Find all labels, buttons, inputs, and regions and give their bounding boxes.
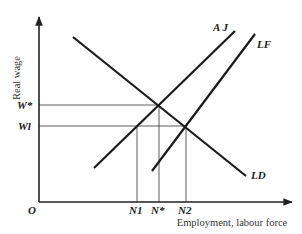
origin-label: O: [28, 204, 36, 216]
x-axis-label: Employment, labour force: [177, 217, 288, 228]
aj-label: A J: [212, 21, 228, 33]
aj-curve: [94, 31, 235, 168]
y-axis-label: Real wage: [11, 56, 22, 100]
labour-market-diagram: Real wage Employment, labour force O A J…: [0, 0, 302, 234]
w-1-label: Wl: [18, 120, 32, 132]
ld-label: LD: [250, 169, 266, 181]
lf-label: LF: [256, 38, 272, 50]
n-2-label: N2: [177, 204, 192, 216]
n-1-label: N1: [128, 204, 142, 216]
ld-curve: [73, 37, 246, 176]
w-star-label: W*: [17, 99, 33, 111]
lf-curve: [152, 34, 255, 171]
n-star-label: N*: [150, 204, 165, 216]
